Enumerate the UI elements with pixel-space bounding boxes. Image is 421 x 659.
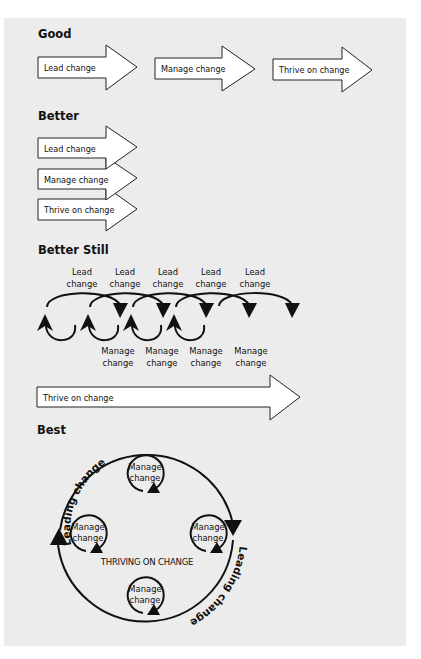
- arrow-label: Thrive on change: [42, 393, 113, 403]
- better-arrow-lead-change: Lead change: [38, 126, 137, 169]
- manage-label-line1: Manage: [128, 462, 161, 472]
- manage-circle-right: Manage change: [191, 515, 227, 553]
- manage-label-line2: change: [147, 358, 178, 368]
- arrow-label: Lead change: [44, 144, 96, 154]
- section-title-good: Good: [38, 27, 71, 41]
- manage-label-line2: change: [236, 358, 267, 368]
- change-diagram: Good Lead change Manage change Thrive on…: [0, 0, 421, 659]
- arrow-label: Lead change: [44, 63, 96, 73]
- lead-label-line1: Lead: [115, 267, 135, 277]
- manage-label-line1: Manage: [234, 346, 267, 356]
- outer-label-bottom: Leading change: [188, 546, 249, 630]
- section-better-still: Better Still Lead change Lead change Lea…: [37, 243, 300, 420]
- down-arrowhead-icon: [156, 303, 171, 318]
- arrow-label: Manage change: [161, 64, 226, 74]
- lead-label-line2: change: [67, 279, 98, 289]
- section-title-best: Best: [37, 423, 66, 437]
- lead-arcs: [47, 293, 300, 318]
- manage-label-line2: change: [103, 358, 134, 368]
- lead-label-line2: change: [110, 279, 141, 289]
- lead-label-line1: Lead: [72, 267, 92, 277]
- section-best: Best Leading change Leading change Manag…: [37, 423, 250, 630]
- thrive-on-change-long-arrow: Thrive on change: [37, 375, 300, 420]
- manage-circle-left: Manage change: [71, 515, 107, 553]
- up-arrowhead-icon: [166, 314, 182, 331]
- manage-label-line2: change: [191, 358, 222, 368]
- section-good: Good Lead change Manage change Thrive on…: [38, 27, 372, 92]
- down-arrowhead-icon: [242, 303, 257, 318]
- manage-label-line1: Manage: [128, 584, 161, 594]
- manage-label-line1: Manage: [191, 522, 224, 532]
- arrow-label: Thrive on change: [43, 205, 114, 215]
- manage-label-line2: change: [73, 533, 104, 543]
- manage-label-line2: change: [130, 595, 161, 605]
- arrow-label: Thrive on change: [278, 65, 349, 75]
- lead-label-line1: Lead: [245, 267, 265, 277]
- better-arrow-thrive-on-change: Thrive on change: [38, 187, 137, 231]
- down-arrowhead-icon: [285, 303, 300, 318]
- down-arrowhead-icon: [113, 303, 128, 318]
- manage-label-line2: change: [130, 473, 161, 483]
- section-title-better: Better: [38, 109, 79, 123]
- up-arrowhead-icon: [80, 314, 96, 331]
- section-title-better-still: Better Still: [38, 243, 109, 257]
- manage-label-line1: Manage: [71, 522, 104, 532]
- manage-circle-bottom: Manage change: [128, 577, 164, 615]
- lead-label-line2: change: [240, 279, 271, 289]
- center-label: THRIVING ON CHANGE: [100, 557, 194, 567]
- section-better: Better Thrive on change Manage change Le…: [38, 109, 137, 231]
- good-arrow-lead-change: Lead change: [38, 45, 137, 90]
- lead-label-line1: Lead: [158, 267, 178, 277]
- good-arrow-manage-change: Manage change: [155, 46, 255, 91]
- lead-label-line2: change: [196, 279, 227, 289]
- manage-change-labels: Manage change Manage change Manage chang…: [101, 346, 267, 368]
- lead-label-line2: change: [153, 279, 184, 289]
- manage-circle-top: Manage change: [128, 455, 164, 493]
- manage-label-line1: Manage: [189, 346, 222, 356]
- manage-label-line2: change: [193, 533, 224, 543]
- lead-change-labels: Lead change Lead change Lead change Lead…: [67, 267, 271, 289]
- good-arrow-thrive-on-change: Thrive on change: [273, 47, 372, 92]
- better-arrow-manage-change: Manage change: [38, 157, 137, 200]
- lead-label-line1: Lead: [201, 267, 221, 277]
- manage-label-line1: Manage: [101, 346, 134, 356]
- up-arrowhead-icon: [123, 314, 139, 331]
- up-arrowhead-icon: [37, 314, 53, 331]
- down-arrowhead-icon: [199, 303, 214, 318]
- arrow-label: Manage change: [44, 175, 109, 185]
- manage-label-line1: Manage: [145, 346, 178, 356]
- manage-loops: [37, 314, 204, 340]
